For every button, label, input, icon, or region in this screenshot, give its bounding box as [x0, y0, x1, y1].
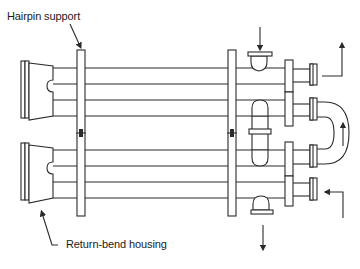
- return-bend-housing-leader: [42, 213, 58, 245]
- shell-pipes-lower: [53, 150, 285, 198]
- shell-pipes-upper: [53, 68, 285, 116]
- hairpin-support-right: [227, 50, 237, 216]
- middle-nozzle-connector: [249, 100, 271, 166]
- return-bend-housing-label: Return-bend housing: [66, 238, 167, 250]
- right-end-flanges: [285, 60, 293, 206]
- u-bend-connector: [293, 98, 349, 167]
- return-bend-housing-upper: [21, 61, 53, 120]
- tube-inlet-lower-right: [293, 178, 343, 218]
- hairpin-support-left: [76, 50, 86, 216]
- tube-outlet-upper-right: [293, 45, 342, 85]
- return-bend-housing-lower: [21, 143, 53, 203]
- hairpin-support-leader: [70, 24, 80, 46]
- shell-inlet-nozzle-top: [248, 27, 272, 71]
- hairpin-support-label: Hairpin support: [7, 10, 80, 22]
- shell-outlet-nozzle-bottom: [251, 196, 273, 248]
